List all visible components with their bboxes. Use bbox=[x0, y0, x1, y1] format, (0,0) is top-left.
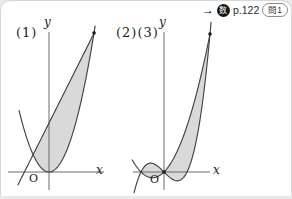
figure1-origin-label: O bbox=[29, 172, 38, 185]
arrow-right-icon: → bbox=[202, 4, 214, 16]
figure2-label: (2)(3) bbox=[116, 25, 159, 40]
figure2-x-axis-label: x bbox=[213, 163, 220, 177]
textbook-circle-icon: 数 bbox=[217, 4, 230, 17]
figure1-label: (1) bbox=[16, 25, 37, 40]
figure2-y-axis-label: y bbox=[159, 15, 166, 29]
problem-number-pill: 問1 bbox=[262, 3, 288, 17]
figure1-x-axis-label: x bbox=[96, 163, 103, 177]
page-reference: p.122 bbox=[233, 4, 259, 16]
figure1-y-axis-label: y bbox=[44, 15, 51, 29]
reference-badge: → 数 p.122 問1 bbox=[202, 3, 288, 17]
figure2-origin-label: O bbox=[150, 173, 159, 186]
